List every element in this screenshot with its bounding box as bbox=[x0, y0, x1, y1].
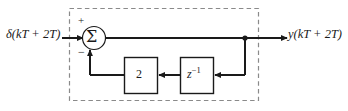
gain-block-label: 2 bbox=[136, 68, 142, 80]
delay-block-label: z−1 bbox=[187, 66, 201, 80]
block-diagram-figure: δ(kT + 2T) y(kT + 2T) Σ + − 2 z−1 bbox=[0, 0, 348, 111]
summation-sigma-symbol: Σ bbox=[86, 29, 97, 45]
delay-block-exponent: −1 bbox=[192, 65, 201, 75]
input-signal-label: δ(kT + 2T) bbox=[6, 28, 60, 41]
system-boundary-dashed-box bbox=[70, 9, 259, 101]
diagram-canvas bbox=[0, 0, 348, 111]
summer-minus-sign: − bbox=[78, 46, 85, 58]
output-signal-label: y(kT + 2T) bbox=[288, 28, 342, 41]
summer-plus-sign: + bbox=[78, 15, 84, 26]
